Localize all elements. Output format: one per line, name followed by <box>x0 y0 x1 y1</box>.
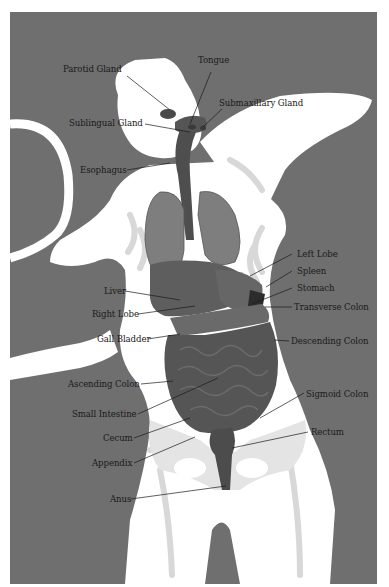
label-sigmoid-colon: Sigmoid Colon <box>306 389 368 399</box>
label-stomach: Stomach <box>297 283 334 293</box>
digestive-system-diagram: Parotid Gland Tongue Submaxillary Gland … <box>0 0 389 587</box>
label-ascending-colon: Ascending Colon <box>68 379 140 389</box>
label-sublingual-gland: Sublingual Gland <box>69 118 143 128</box>
label-descending-colon: Descending Colon <box>291 336 368 346</box>
label-submaxillary-gland: Submaxillary Gland <box>219 98 303 108</box>
label-appendix: Appendix <box>92 458 132 468</box>
label-liver: Liver <box>104 286 126 296</box>
label-esophagus: Esophagus <box>80 165 127 175</box>
label-spleen: Spleen <box>297 266 326 276</box>
label-tongue: Tongue <box>198 55 229 65</box>
label-right-lobe: Right Lobe <box>92 309 139 319</box>
label-gall-bladder: Gall Bladder <box>97 334 150 344</box>
label-parotid-gland: Parotid Gland <box>63 64 122 74</box>
label-left-lobe: Left Lobe <box>297 249 338 259</box>
label-small-intestine: Small Intestine <box>72 409 137 419</box>
label-anus: Anus <box>110 494 131 504</box>
label-cecum: Cecum <box>103 433 133 443</box>
illustration <box>0 0 389 587</box>
label-transverse-colon: Transverse Colon <box>294 302 369 312</box>
label-rectum: Rectum <box>311 427 344 437</box>
